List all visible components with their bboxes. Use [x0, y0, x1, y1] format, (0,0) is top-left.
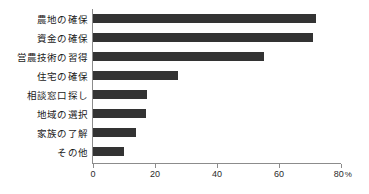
bar: [93, 14, 316, 23]
bar: [93, 52, 264, 61]
x-tick-mark: [217, 164, 218, 168]
bar: [93, 147, 124, 156]
y-axis-line: [92, 9, 93, 164]
category-label: 資金の確保: [37, 33, 88, 45]
category-label: 家族の了解: [37, 128, 88, 140]
category-label: 農地の確保: [37, 14, 88, 26]
x-tick-label: 60: [274, 169, 284, 180]
chart-row: 資金の確保: [0, 31, 369, 50]
x-tick-value: 60: [274, 169, 284, 179]
bar: [93, 33, 313, 42]
x-tick-mark: [279, 164, 280, 168]
bar: [93, 90, 147, 99]
bar: [93, 71, 178, 80]
category-label: 住宅の確保: [37, 71, 88, 83]
x-tick-label: 0: [90, 169, 95, 180]
chart-row: 家族の了解: [0, 126, 369, 145]
x-tick-mark: [155, 164, 156, 168]
x-tick-mark: [341, 164, 342, 168]
chart-row: 営農技術の習得: [0, 50, 369, 69]
category-label: 営農技術の習得: [17, 52, 88, 64]
bar-chart: 農地の確保資金の確保営農技術の習得住宅の確保相談窓口探し地域の選択家族の了解その…: [0, 0, 369, 194]
x-tick-value: 0: [90, 169, 95, 179]
x-tick-value: 40: [212, 169, 222, 179]
x-axis-unit: %: [345, 170, 352, 179]
x-tick-mark: [93, 164, 94, 168]
chart-row: 相談窓口探し: [0, 88, 369, 107]
chart-row: 地域の選択: [0, 107, 369, 126]
x-tick-value: 20: [150, 169, 160, 179]
x-tick-label: 20: [150, 169, 160, 180]
x-tick-value: 80: [334, 169, 344, 179]
chart-row: 農地の確保: [0, 12, 369, 31]
chart-row: 住宅の確保: [0, 69, 369, 88]
bar: [93, 109, 146, 118]
category-label: 相談窓口探し: [27, 90, 88, 102]
x-tick-label: 80%: [334, 169, 352, 180]
category-label: その他: [57, 147, 88, 159]
chart-row: その他: [0, 145, 369, 164]
x-tick-label: 40: [212, 169, 222, 180]
bar: [93, 128, 136, 137]
category-label: 地域の選択: [37, 109, 88, 121]
